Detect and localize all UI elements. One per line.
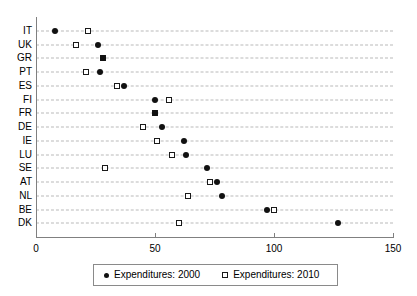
y-tick-label-fi: FI [23,95,32,105]
y-tick-label-nl: NL [19,191,32,201]
y-tick-label-se: SE [19,163,32,173]
gridline [36,168,393,169]
data-point-dk-2010 [176,220,182,226]
x-tick-label-150: 150 [385,244,402,254]
y-tick-label-be: BE [19,205,32,215]
y-tick-label-lu: LU [19,150,32,160]
gridline [36,58,393,59]
scatter-chart: ITUKGRPTESFIFRDEIELUSEATNLBEDK 050100150… [0,0,417,296]
gridline [36,85,393,86]
data-point-de-2000 [159,124,165,130]
y-tick-label-ie: IE [23,136,32,146]
data-point-lu-2000 [183,152,189,158]
data-point-ie-2000 [181,138,187,144]
data-point-nl-2010 [185,193,191,199]
x-tick-mark [36,233,37,238]
y-tick-label-es: ES [19,81,32,91]
y-tick-label-gr: GR [17,53,32,63]
y-tick-label-fr: FR [19,108,32,118]
data-point-uk-2010 [73,42,79,48]
data-point-uk-2000 [95,42,101,48]
x-tick-label-50: 50 [149,244,160,254]
data-point-se-2000 [204,165,210,171]
data-point-dk-2000 [335,220,341,226]
data-point-pt-2010 [83,69,89,75]
gridline [36,44,393,45]
x-tick-mark [155,233,156,238]
legend-entry-2010: Expenditures: 2010 [222,270,319,280]
data-point-be-2000 [264,207,270,213]
data-point-es-2000 [121,83,127,89]
y-tick-label-dk: DK [18,218,32,228]
x-tick-label-0: 0 [33,244,39,254]
x-tick-label-100: 100 [266,244,283,254]
data-point-es-2010 [114,83,120,89]
gridline [36,99,393,100]
data-point-se-2010 [102,165,108,171]
data-point-it-2000 [52,28,58,34]
gridline [36,209,393,210]
y-tick-label-de: DE [18,122,32,132]
gridline [36,113,393,114]
legend-entry-2000: Expenditures: 2000 [104,270,200,280]
y-axis-line [36,17,37,237]
data-point-nl-2000 [219,193,225,199]
gridline [36,140,393,141]
gridline [36,195,393,196]
data-point-fr-2000 [152,110,158,116]
data-point-lu-2010 [169,152,175,158]
y-tick-label-it: IT [23,26,32,36]
data-point-fi-2000 [152,97,158,103]
x-axis-line [36,237,393,238]
y-tick-label-pt: PT [19,67,32,77]
data-point-at-2010 [207,179,213,185]
data-point-ie-2010 [154,138,160,144]
y-tick-label-at: AT [20,177,32,187]
open-square-icon [222,272,228,278]
gridline [36,72,393,73]
x-tick-mark [274,233,275,238]
data-point-fi-2010 [166,97,172,103]
legend-label-2010: Expenditures: 2010 [233,270,319,280]
chart-legend: Expenditures: 2000 Expenditures: 2010 [93,264,338,286]
x-tick-mark [393,233,394,238]
data-point-pt-2000 [97,69,103,75]
data-point-gr-2000 [100,55,106,61]
data-point-it-2010 [85,28,91,34]
gridline [36,127,393,128]
filled-circle-icon [104,273,109,278]
data-point-de-2010 [140,124,146,130]
y-tick-label-uk: UK [18,40,32,50]
legend-label-2000: Expenditures: 2000 [114,270,200,280]
data-point-at-2000 [214,179,220,185]
gridline [36,154,393,155]
data-point-be-2010 [271,207,277,213]
